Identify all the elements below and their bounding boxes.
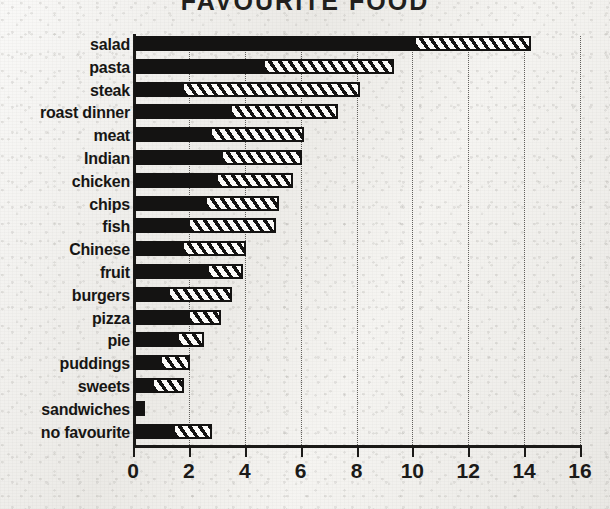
x-tick-label-16: 16 [568,459,591,483]
bar-steak [134,82,360,97]
bar-segment-hatched [232,104,338,119]
category-label-sandwiches: sandwiches [2,402,130,418]
bar-chips [134,196,279,211]
x-tick-8 [357,448,359,457]
category-label-fish: fish [2,219,130,235]
category-label-chips: chips [2,197,130,213]
bar-segment-hatched [207,196,280,211]
bar-segment-hatched [175,424,213,439]
bar-segment-hatched [212,127,304,142]
plot-area [134,36,580,445]
bar-segment-hatched [154,378,185,393]
category-label-roast-dinner: roast dinner [2,105,130,121]
chart-title: FAVOURITE FOOD [0,0,610,16]
bar-Indian [134,150,302,165]
bar-segment-hatched [218,173,293,188]
bar-segment-solid [134,378,154,393]
bar-fish [134,218,276,233]
category-label-no-favourite: no favourite [2,425,130,441]
x-tick-label-12: 12 [457,459,480,483]
bar-segment-hatched [416,36,531,51]
bar-segment-solid [134,196,207,211]
bar-segment-solid [134,36,416,51]
category-label-pasta: pasta [2,60,130,76]
bar-segment-solid [134,241,184,256]
bar-segment-solid [134,424,175,439]
bar-segment-solid [134,104,232,119]
bar-segment-hatched [190,310,221,325]
bar-pizza [134,310,221,325]
bar-segment-hatched [223,150,301,165]
x-tick-label-10: 10 [401,459,424,483]
bar-pie [134,332,204,347]
bar-sweets [134,378,184,393]
x-tick-label-6: 6 [295,459,307,483]
bar-meat [134,127,304,142]
x-tick-0 [133,448,135,457]
x-tick-12 [468,448,470,457]
bar-segment-solid [134,332,179,347]
x-tick-10 [412,448,414,457]
bar-segment-solid [134,82,184,97]
bar-segment-hatched [179,332,204,347]
category-label-sweets: sweets [2,379,130,395]
bar-pasta [134,59,394,74]
bar-segment-hatched [190,218,277,233]
bar-segment-hatched [184,82,360,97]
bar-segment-solid [134,127,212,142]
bar-segment-hatched [170,287,231,302]
category-label-pizza: pizza [2,311,130,327]
category-label-meat: meat [2,128,130,144]
category-label-fruit: fruit [2,265,130,281]
bar-segment-solid [134,310,190,325]
x-tick-label-2: 2 [183,459,195,483]
category-label-Indian: Indian [2,151,130,167]
category-label-burgers: burgers [2,288,130,304]
bar-fruit [134,264,243,279]
bar-segment-hatched [162,355,190,370]
bar-sandwiches [134,401,145,416]
bar-segment-hatched [184,241,245,256]
bar-segment-solid [134,173,218,188]
bar-burgers [134,287,232,302]
x-tick-14 [524,448,526,457]
chart-page: FAVOURITE FOOD 0246810121416 saladpastas… [0,0,610,509]
category-label-Chinese: Chinese [2,242,130,258]
x-tick-6 [301,448,303,457]
bar-segment-solid [134,355,162,370]
bar-segment-solid [134,401,145,416]
x-tick-label-4: 4 [239,459,251,483]
bar-salad [134,36,531,51]
bar-roast-dinner [134,104,338,119]
x-tick-label-0: 0 [127,459,139,483]
category-label-puddings: puddings [2,356,130,372]
x-tick-label-14: 14 [512,459,535,483]
bar-puddings [134,355,190,370]
gridline-16 [580,36,581,445]
x-tick-16 [580,448,582,457]
bar-segment-solid [134,150,223,165]
category-label-salad: salad [2,37,130,53]
bar-segment-solid [134,59,265,74]
category-label-steak: steak [2,83,130,99]
bar-segment-solid [134,264,209,279]
bar-Chinese [134,241,246,256]
category-label-chicken: chicken [2,174,130,190]
bar-segment-solid [134,287,170,302]
bar-chicken [134,173,293,188]
category-label-pie: pie [2,333,130,349]
bar-no-favourite [134,424,212,439]
bar-segment-solid [134,218,190,233]
bar-segment-hatched [265,59,394,74]
bar-segment-hatched [209,264,243,279]
x-tick-label-8: 8 [351,459,363,483]
x-tick-2 [189,448,191,457]
y-axis-category-labels: saladpastasteakroast dinnermeatIndianchi… [0,36,130,445]
x-tick-4 [245,448,247,457]
